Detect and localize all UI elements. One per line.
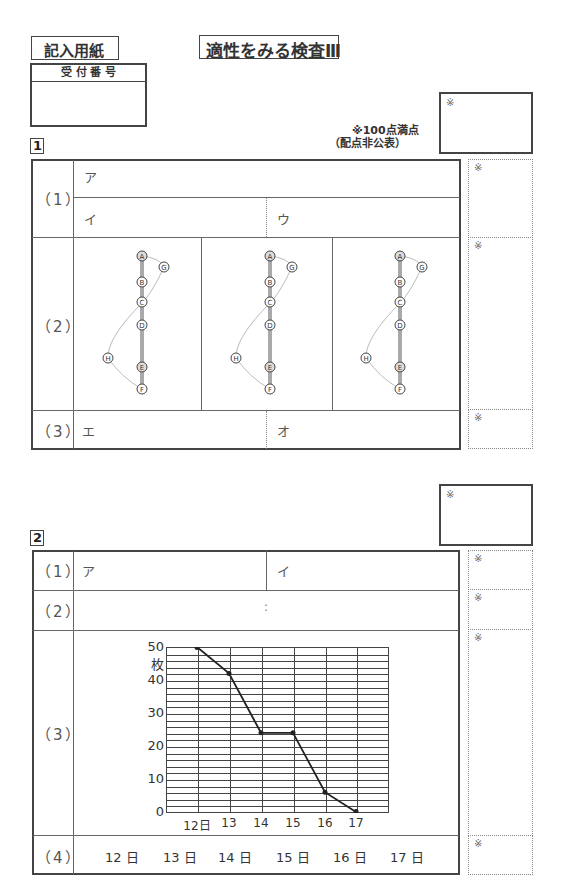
ratio-separator: : <box>264 600 268 614</box>
s2-row1-label: （1） <box>36 560 82 581</box>
row-divider <box>33 630 459 631</box>
s2-row3-label: （3） <box>36 723 82 744</box>
s1-answer-a-field[interactable] <box>95 160 455 196</box>
x-tick-12: 12日 <box>182 816 212 833</box>
day-option-13[interactable]: 13 日 <box>163 847 197 866</box>
score-note-line2: （配点非公表） <box>329 134 406 150</box>
y-axis-unit: 枚 <box>140 654 164 673</box>
ratio-left-field[interactable] <box>80 592 260 628</box>
y-tick-50: 50 <box>140 639 164 654</box>
s1-row3-score-box[interactable]: ※ <box>468 409 533 449</box>
cell-divider <box>266 198 267 237</box>
day-option-16[interactable]: 16 日 <box>333 847 367 866</box>
cell-divider <box>266 551 267 590</box>
cell-divider <box>266 411 267 449</box>
x-tick-15: 15 <box>278 816 308 830</box>
x-tick-16: 16 <box>310 816 340 830</box>
row-divider <box>33 590 459 591</box>
x-tick-14: 14 <box>246 816 276 830</box>
s2-row2-score-box[interactable]: ※ <box>468 589 533 630</box>
s2-answer-i-label: イ <box>277 561 290 580</box>
section1-total-score-box[interactable]: ※ <box>439 92 533 154</box>
s2-answer-a-field[interactable] <box>95 551 263 589</box>
y-tick-40: 40 <box>140 672 164 687</box>
diagram-panel-1-area[interactable] <box>74 238 200 409</box>
s1-answer-e-label: エ <box>82 421 95 440</box>
s1-row1-score-box[interactable]: ※ <box>468 159 533 238</box>
day-option-17[interactable]: 17 日 <box>390 847 424 866</box>
day-option-12[interactable]: 12 日 <box>105 847 139 866</box>
y-tick-20: 20 <box>140 738 164 753</box>
s2-row4-label: （4） <box>36 846 82 867</box>
page-title: 適性をみる検査Ⅲ <box>206 37 341 62</box>
diagram-panel-3-area[interactable] <box>333 238 460 409</box>
s2-row2-label: （2） <box>36 600 82 621</box>
s1-answer-u-field[interactable] <box>290 199 458 235</box>
s2-row4-score-box[interactable]: ※ <box>468 835 533 875</box>
s1-answer-o-field[interactable] <box>290 411 458 448</box>
diagram-panel-2-area[interactable] <box>202 238 331 409</box>
x-tick-17: 17 <box>341 816 371 830</box>
section1-number: 1 <box>30 138 44 154</box>
s2-row1-score-box[interactable]: ※ <box>468 550 533 590</box>
section2-total-score-box[interactable]: ※ <box>439 484 533 546</box>
y-tick-10: 10 <box>140 771 164 786</box>
row-divider <box>33 835 459 836</box>
line-series <box>166 647 389 813</box>
s1-row2-score-box[interactable]: ※ <box>468 237 533 410</box>
s1-answer-u-label: ウ <box>277 209 290 228</box>
ratio-right-field[interactable] <box>275 592 455 628</box>
day-option-15[interactable]: 15 日 <box>276 847 310 866</box>
score-mark: ※ <box>446 97 454 108</box>
s2-answer-a-label: ア <box>82 561 95 580</box>
day-option-14[interactable]: 14 日 <box>218 847 252 866</box>
section2-number: 2 <box>30 530 44 546</box>
reception-number-label: 受 付 番 号 <box>32 65 145 82</box>
y-tick-0: 0 <box>140 804 164 819</box>
title-box: 適性をみる検査Ⅲ <box>199 35 339 59</box>
y-tick-30: 30 <box>140 705 164 720</box>
form-label: 記入用紙 <box>44 39 104 60</box>
s1-answer-o-label: オ <box>277 421 290 440</box>
score-mark: ※ <box>446 489 454 500</box>
s1-answer-e-field[interactable] <box>95 411 263 448</box>
reception-number-box: 受 付 番 号 <box>30 63 147 127</box>
form-label-box: 記入用紙 <box>31 36 119 60</box>
s1-row1-label: （1） <box>36 188 82 209</box>
s2-answer-i-field[interactable] <box>290 551 458 589</box>
s1-answer-i-field[interactable] <box>95 199 263 235</box>
reception-number-field[interactable] <box>32 82 145 126</box>
s1-row3-label: （3） <box>36 420 82 441</box>
x-tick-13: 13 <box>214 816 244 830</box>
s2-row3-score-box[interactable]: ※ <box>468 629 533 836</box>
